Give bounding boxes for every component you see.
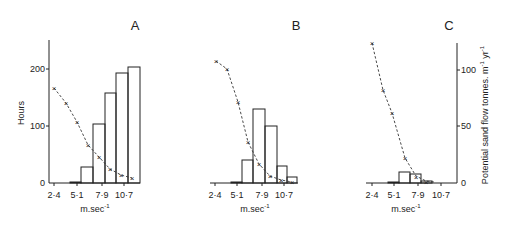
panel-a-bars <box>70 67 140 183</box>
svg-text:×: × <box>130 174 135 183</box>
svg-text:2·4: 2·4 <box>365 190 378 200</box>
svg-text:×: × <box>279 176 284 185</box>
svg-text:×: × <box>403 154 408 163</box>
panel-b-x-ticks: 2·45·17·910·7 <box>208 190 293 200</box>
svg-text:7·9: 7·9 <box>95 190 108 200</box>
svg-text:×: × <box>424 178 429 187</box>
figure: ×××××××× ×××××××× ×××××× A B C 200 100 0… <box>0 0 509 226</box>
svg-text:5·1: 5·1 <box>230 190 243 200</box>
svg-text:5·1: 5·1 <box>387 190 400 200</box>
svg-text:×: × <box>214 57 219 66</box>
panel-b-x-label: m.sec-1 <box>240 203 270 214</box>
x-markers: ×××××××× ×××××××× ×××××× <box>52 39 429 187</box>
svg-text:2·4: 2·4 <box>208 190 221 200</box>
svg-text:7·9: 7·9 <box>255 190 268 200</box>
panel-b-sand-flow-line <box>216 61 292 182</box>
svg-text:×: × <box>108 165 113 174</box>
y2-tick-50: 50 <box>461 121 471 131</box>
svg-text:×: × <box>119 171 124 180</box>
svg-text:×: × <box>290 178 295 187</box>
svg-text:×: × <box>86 141 91 150</box>
svg-text:10·7: 10·7 <box>432 190 450 200</box>
svg-text:×: × <box>236 98 241 107</box>
panel-a-title: A <box>131 18 140 33</box>
svg-text:×: × <box>370 39 375 48</box>
y-tick-0: 0 <box>40 178 45 188</box>
svg-text:×: × <box>414 173 419 182</box>
svg-text:×: × <box>390 109 395 118</box>
svg-text:5·1: 5·1 <box>70 190 83 200</box>
svg-text:×: × <box>381 86 386 95</box>
panel-b-bars <box>231 109 297 183</box>
y2-tick-100: 100 <box>461 65 476 75</box>
y2-tick-0: 0 <box>461 178 466 188</box>
svg-text:×: × <box>52 84 57 93</box>
svg-text:×: × <box>225 65 230 74</box>
panel-c-x-ticks: 2·45·17·910·7 <box>365 190 450 200</box>
svg-text:×: × <box>268 172 273 181</box>
svg-text:7·9: 7·9 <box>411 190 424 200</box>
svg-text:10·7: 10·7 <box>115 190 133 200</box>
y-tick-100: 100 <box>30 121 45 131</box>
svg-text:×: × <box>75 118 80 127</box>
panel-b-title: B <box>292 18 301 33</box>
y-axis-label-hours: Hours <box>16 101 26 126</box>
svg-text:10·7: 10·7 <box>275 190 293 200</box>
svg-text:×: × <box>64 99 69 108</box>
svg-text:×: × <box>246 138 251 147</box>
panel-c-x-label: m.sec-1 <box>391 203 421 214</box>
svg-text:×: × <box>257 160 262 169</box>
y2-axis-label: Potential sand flow tonnes. m-1 yr-1 <box>479 45 490 184</box>
panel-a-x-ticks: 2·45·17·910·7 <box>47 190 133 200</box>
panel-a-x-label: m.sec-1 <box>80 203 110 214</box>
panel-c-title: C <box>444 18 453 33</box>
svg-text:×: × <box>97 153 102 162</box>
svg-text:2·4: 2·4 <box>47 190 60 200</box>
y-tick-200: 200 <box>30 64 45 74</box>
